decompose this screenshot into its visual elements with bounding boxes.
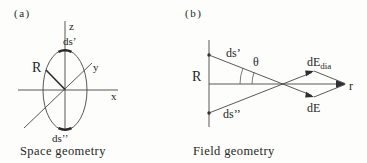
r-label: r — [349, 79, 353, 93]
physics-figure: (a) z ds’ R y x ds’’ Space geometry (b) — [0, 0, 367, 163]
radius-line — [46, 70, 65, 90]
panel-b-caption: Field geometry — [193, 144, 275, 158]
panel-a-caption: Space geometry — [20, 144, 106, 158]
ds-prime-ray — [209, 55, 312, 96]
dE-dia-arrowhead — [305, 71, 314, 77]
ds-double-prime-label-a: ds’’ — [52, 132, 68, 144]
theta-angle-arc-inner — [252, 72, 254, 84]
parallelogram-upper-line — [314, 71, 345, 84]
radius-label-b: R — [192, 69, 202, 84]
theta-angle-arc-outer — [240, 68, 243, 84]
dE-arrowhead — [305, 92, 314, 98]
figure-canvas: (a) z ds’ R y x ds’’ Space geometry (b) — [0, 0, 367, 163]
panel-a-tag: (a) — [14, 7, 31, 20]
radius-label-a: R — [32, 60, 42, 75]
z-axis-label: z — [69, 20, 74, 32]
dE-dia-label-main: dE — [307, 55, 320, 69]
panel-b-tag: (b) — [185, 7, 202, 20]
y-axis-label: y — [93, 61, 99, 73]
dE-dia-label-subscript: dia — [320, 61, 331, 71]
dE-dia-label: dEdia — [307, 55, 331, 71]
ds-prime-label-a: ds’ — [63, 35, 76, 47]
dE-label: dE — [307, 101, 320, 115]
ds-prime-label-b: ds’ — [226, 46, 241, 60]
theta-label: θ — [253, 55, 259, 69]
panel-a-space-geometry: (a) z ds’ R y x ds’’ Space geometry — [14, 7, 118, 158]
x-axis-label: x — [111, 90, 117, 102]
ds-double-prime-label-b: ds’’ — [223, 107, 241, 121]
panel-b-field-geometry: (b) R ds’ θ dEdia — [185, 7, 353, 158]
r-axis-arrowhead — [336, 80, 346, 88]
parallelogram-lower-line — [314, 85, 345, 98]
